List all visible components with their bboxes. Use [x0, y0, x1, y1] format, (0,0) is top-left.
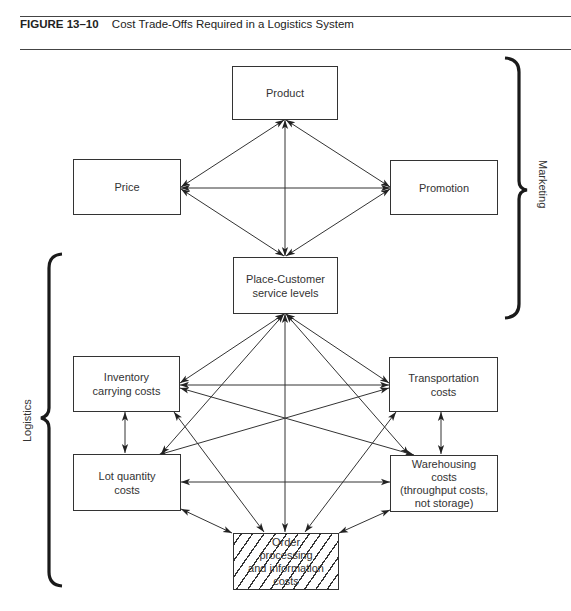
edge-lot-order: [181, 509, 232, 533]
node-price: Price: [73, 159, 181, 215]
node-product: Product: [232, 66, 338, 120]
node-lot-quantity-label: Lot quantity costs: [99, 469, 156, 497]
node-promotion: Promotion: [390, 160, 498, 215]
edge-warehousing-order: [339, 510, 390, 533]
node-inventory-label: Inventory carrying costs: [93, 370, 161, 398]
edge-transportation-order: [305, 412, 396, 532]
node-warehousing-label: Warehousing costs (throughput costs, not…: [400, 458, 488, 510]
edge-promotion-place: [286, 189, 390, 256]
node-transportation-costs: Transportation costs: [389, 357, 498, 412]
edge-product-price: [181, 120, 284, 187]
edge-inventory-order: [174, 412, 264, 532]
logistics-brace: [41, 254, 62, 586]
node-price-label: Price: [114, 180, 139, 194]
marketing-brace: [505, 58, 527, 318]
node-warehousing-costs: Warehousing costs (throughput costs, not…: [390, 455, 498, 512]
node-order-processing-label: Order processing and information costs: [248, 536, 324, 588]
edge-price-place: [181, 189, 284, 256]
edge-inventory-warehousing: [180, 388, 414, 455]
node-product-label: Product: [266, 86, 304, 100]
edge-product-promotion: [286, 120, 390, 187]
node-place-customer-service: Place-Customer service levels: [233, 257, 338, 314]
logistics-group-label: Logistics: [21, 399, 33, 442]
marketing-group-label: Marketing: [537, 160, 549, 208]
node-order-processing-costs: Order processing and information costs: [233, 533, 339, 590]
node-transportation-label: Transportation costs: [408, 371, 479, 399]
node-place-label: Place-Customer service levels: [246, 272, 325, 300]
node-inventory-carrying-costs: Inventory carrying costs: [73, 356, 180, 412]
edge-transportation-lot: [158, 388, 389, 455]
node-promotion-label: Promotion: [419, 181, 469, 195]
node-lot-quantity-costs: Lot quantity costs: [73, 454, 181, 511]
